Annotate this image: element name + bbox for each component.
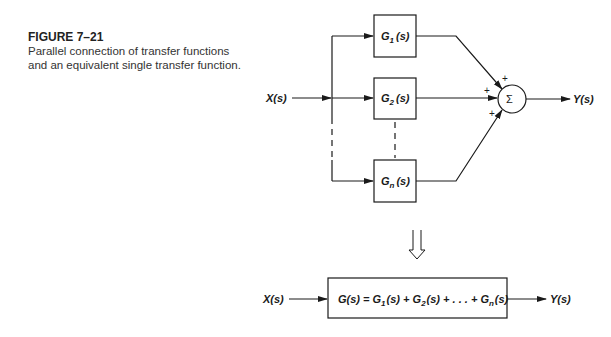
block-diagram: X(s) G1(s) G2(s) Gn(s) Σ + + + Y(s) xyxy=(0,0,611,337)
sigma-symbol: Σ xyxy=(506,93,513,105)
g1-output-line xyxy=(416,36,502,89)
gn-output-line xyxy=(416,110,502,181)
sign-top: + xyxy=(502,73,508,84)
equivalent-diagram: X(s) G(s) = G1(s) + G2(s) + . . . + Gn(s… xyxy=(262,278,571,318)
sign-middle: + xyxy=(484,85,490,96)
equivalence-arrow-icon xyxy=(409,230,425,259)
parallel-diagram: X(s) G1(s) G2(s) Gn(s) Σ + + + Y(s) xyxy=(265,15,594,202)
input-label-top: X(s) xyxy=(265,92,287,104)
input-label-bottom: X(s) xyxy=(262,293,284,305)
output-label-bottom: Y(s) xyxy=(550,293,571,305)
sign-bottom: + xyxy=(489,108,495,119)
output-label-top: Y(s) xyxy=(573,93,594,105)
